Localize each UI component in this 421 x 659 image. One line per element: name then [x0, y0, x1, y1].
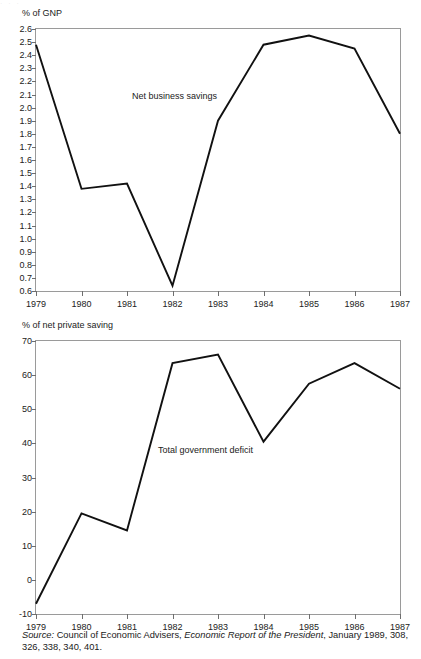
polyline-total-government-deficit: [36, 355, 400, 604]
y-tick-label: 1.2: [19, 207, 36, 217]
y-tick-label: 1.1: [19, 221, 36, 231]
y-tick-label: 70: [22, 336, 36, 346]
y-tick-label: 2.4: [19, 50, 36, 60]
y-tick-label: 0.7: [19, 273, 36, 283]
y-tick-label: -10: [19, 609, 36, 619]
x-tick-mark: [36, 614, 37, 619]
x-tick-label: 1980: [71, 299, 91, 309]
chart-panel-net-business-savings: % of GNP 2.62.52.42.32.22.12.01.91.81.71…: [0, 8, 421, 320]
x-tick-mark: [127, 614, 128, 619]
y-tick-label: 30: [22, 473, 36, 483]
x-tick-mark: [218, 291, 219, 296]
series-line-net-business-savings: [36, 29, 400, 291]
y-tick-label: 0: [27, 575, 36, 585]
source-body-1: Council of Economic Advisers,: [54, 630, 184, 640]
x-tick-label: 1983: [208, 299, 228, 309]
y-tick-label: 10: [22, 541, 36, 551]
source-publication-title: Economic Report of the President: [184, 630, 323, 640]
series-annotation: Total government deficit: [158, 445, 253, 455]
x-tick-mark: [264, 291, 265, 296]
y-tick-label: 0.6: [19, 286, 36, 296]
y-axis-title-gnp: % of GNP: [22, 8, 62, 18]
y-axis-title-net-private-saving: % of net private saving: [22, 320, 113, 330]
x-tick-mark: [309, 291, 310, 296]
x-tick-mark: [309, 614, 310, 619]
series-annotation: Net business savings: [132, 91, 217, 101]
polyline-net-business-savings: [36, 36, 400, 286]
y-tick-label: 1.4: [19, 181, 36, 191]
y-tick-label: 40: [22, 438, 36, 448]
x-tick-label: 1987: [390, 299, 410, 309]
source-note: Source: Council of Economic Advisers, Ec…: [22, 630, 412, 653]
y-tick-label: 2.2: [19, 76, 36, 86]
x-tick-mark: [400, 614, 401, 619]
y-tick-label: 50: [22, 404, 36, 414]
y-tick-label: 1.8: [19, 129, 36, 139]
x-tick-label: 1982: [162, 299, 182, 309]
x-tick-mark: [355, 291, 356, 296]
x-tick-mark: [264, 614, 265, 619]
x-tick-label: 1986: [344, 299, 364, 309]
y-tick-label: 2.0: [19, 103, 36, 113]
x-tick-mark: [173, 291, 174, 296]
x-tick-label: 1984: [253, 299, 273, 309]
chart-page: · · · % of GNP 2.62.52.42.32.22.12.01.91…: [0, 0, 421, 659]
plot-area-net-business-savings: 2.62.52.42.32.22.12.01.91.81.71.61.51.41…: [35, 28, 401, 292]
chart-panel-total-government-deficit: % of net private saving 706050403020100-…: [0, 320, 421, 625]
x-tick-label: 1985: [299, 299, 319, 309]
source-label: Source:: [22, 630, 54, 640]
y-tick-label: 2.5: [19, 37, 36, 47]
series-line-total-government-deficit: [36, 341, 400, 614]
x-tick-mark: [127, 291, 128, 296]
y-tick-label: 1.3: [19, 194, 36, 204]
y-tick-label: 0.8: [19, 260, 36, 270]
y-tick-label: 60: [22, 370, 36, 380]
x-tick-mark: [400, 291, 401, 296]
y-tick-label: 1.7: [19, 142, 36, 152]
plot-area-total-government-deficit: 706050403020100-101979198019811982198319…: [35, 340, 401, 615]
x-tick-mark: [82, 614, 83, 619]
y-tick-label: 20: [22, 507, 36, 517]
x-tick-mark: [218, 614, 219, 619]
y-tick-label: 1.6: [19, 155, 36, 165]
x-tick-mark: [36, 291, 37, 296]
x-tick-mark: [82, 291, 83, 296]
x-tick-mark: [355, 614, 356, 619]
x-tick-mark: [173, 614, 174, 619]
top-edge-artifact: · · ·: [0, 0, 421, 8]
y-tick-label: 2.3: [19, 63, 36, 73]
y-tick-label: 1.9: [19, 116, 36, 126]
y-tick-label: 1.5: [19, 168, 36, 178]
y-tick-label: 0.9: [19, 247, 36, 257]
y-tick-label: 1.0: [19, 234, 36, 244]
x-tick-label: 1981: [117, 299, 137, 309]
y-tick-label: 2.1: [19, 90, 36, 100]
y-tick-label: 2.6: [19, 24, 36, 34]
x-tick-label: 1979: [26, 299, 46, 309]
